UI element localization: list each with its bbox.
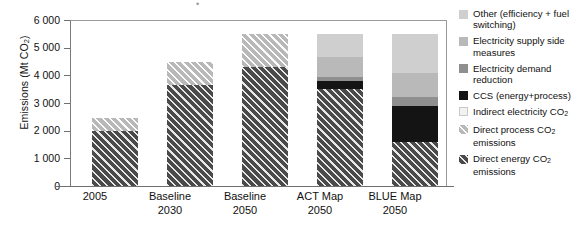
y-tick-label: 5 000 bbox=[14, 42, 60, 52]
segment-direct-process bbox=[167, 62, 213, 86]
legend-swatch-elec-supply-icon bbox=[459, 37, 468, 46]
y-tick-label: 3 000 bbox=[14, 98, 60, 108]
legend-swatch-other-icon bbox=[459, 10, 468, 19]
legend-swatch-elec-demand-icon bbox=[459, 64, 468, 73]
legend-item-elec-supply[interactable]: Electricity supply side measures bbox=[459, 35, 583, 58]
legend-label: CCS (energy+process) bbox=[473, 90, 571, 101]
legend-item-elec-demand[interactable]: Electricity demand reduction bbox=[459, 63, 583, 86]
segment-direct-energy bbox=[167, 85, 213, 186]
legend-item-direct-process[interactable]: Direct process CO2 emissions bbox=[459, 124, 583, 149]
y-tick-label: 6 000 bbox=[14, 15, 60, 25]
legend-label: Direct energy CO bbox=[473, 153, 547, 164]
legend-label: Indirect electricity CO bbox=[473, 106, 564, 117]
legend-item-direct-energy[interactable]: Direct energy CO2 emissions bbox=[459, 153, 583, 178]
legend-item-ccs[interactable]: CCS (energy+process) bbox=[459, 90, 583, 101]
segment-ccs bbox=[317, 81, 363, 89]
segment-other bbox=[317, 34, 363, 58]
y-tick-label: 2 000 bbox=[14, 125, 60, 135]
legend-swatch-ccs-icon bbox=[459, 91, 468, 100]
segment-direct-energy bbox=[317, 89, 363, 186]
segment-direct-energy bbox=[92, 131, 138, 186]
segment-direct-process bbox=[92, 118, 138, 131]
y-tick-label: 4 000 bbox=[14, 70, 60, 80]
legend-item-other[interactable]: Other (efficiency + fuel switching) bbox=[459, 8, 583, 31]
legend-swatch-indirect-icon bbox=[459, 107, 468, 116]
legend-label: Direct process CO bbox=[473, 124, 551, 135]
segment-elec-demand bbox=[317, 77, 363, 81]
segment-elec-supply bbox=[317, 57, 363, 76]
segment-direct-energy bbox=[242, 67, 288, 186]
bar-series-group bbox=[70, 20, 447, 186]
segment-direct-process bbox=[242, 34, 288, 67]
x-label-blue-map-2050: BLUE Map 2050 bbox=[349, 190, 441, 217]
legend-label: Electricity demand reduction bbox=[473, 63, 551, 85]
legend-swatch-direct-process-icon bbox=[459, 125, 468, 134]
y-tick-label: 1 000 bbox=[14, 153, 60, 163]
segment-ccs bbox=[392, 106, 438, 142]
segment-direct-energy bbox=[392, 142, 438, 186]
segment-other bbox=[392, 34, 438, 73]
segment-elec-demand bbox=[392, 97, 438, 105]
title-fragment: • bbox=[196, 0, 316, 6]
legend-label: Other (efficiency + fuel switching) bbox=[473, 8, 569, 30]
legend-swatch-direct-energy-icon bbox=[459, 155, 468, 164]
legend: Other (efficiency + fuel switching) Elec… bbox=[459, 8, 583, 182]
segment-elec-supply bbox=[392, 73, 438, 98]
legend-label: Electricity supply side measures bbox=[473, 35, 565, 57]
chart-figure: • Emissions (Mt CO2) 6 000 5 000 4 000 3… bbox=[0, 0, 583, 230]
legend-item-indirect[interactable]: Indirect electricity CO2 bbox=[459, 106, 583, 119]
x-axis-line bbox=[56, 186, 454, 187]
